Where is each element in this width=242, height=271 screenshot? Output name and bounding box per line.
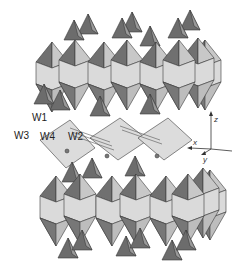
water-atom [105,154,109,158]
octahedron [120,174,152,244]
octahedron [111,40,143,110]
tetrahedron [125,156,145,176]
water-layer [34,84,192,182]
axis-indicator [187,111,232,155]
label-w4: W4 [40,132,55,142]
water-atom [155,154,159,158]
axis-label-y: y [203,156,207,164]
label-w2: W2 [68,132,83,142]
label-w3: W3 [14,131,29,141]
tetrahedron [180,10,200,30]
label-w1: W1 [32,113,47,123]
crystal-structure-diagram [0,0,242,271]
upper-layer [36,10,221,112]
tetrahedron [78,14,98,34]
axis-label-z: z [214,116,218,124]
tetrahedron [82,158,102,178]
axis-label-x: x [193,139,197,147]
water-atom [65,149,69,153]
